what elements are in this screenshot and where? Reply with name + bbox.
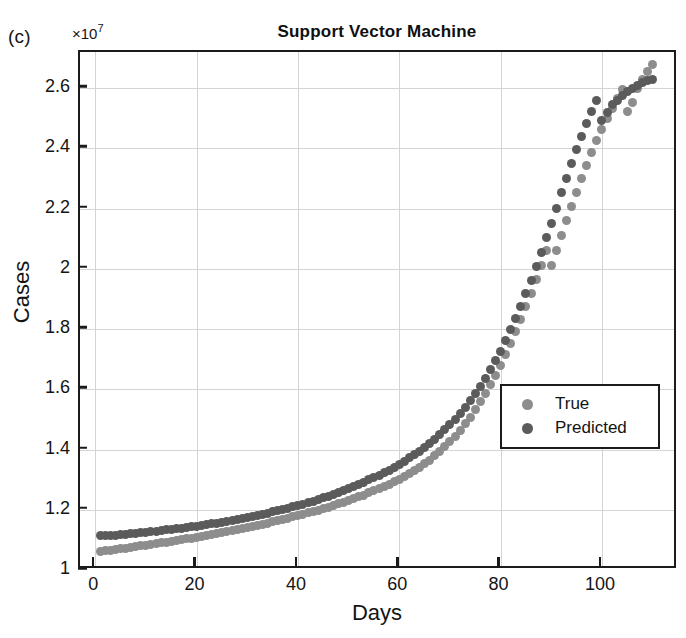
gridline-horizontal (80, 329, 674, 330)
y-tick-mark (78, 266, 87, 269)
data-point-true (587, 148, 596, 157)
data-point-true (572, 188, 581, 197)
gridline-horizontal (80, 209, 674, 210)
figure-panel: (c) ×107 Support Vector Machine 11.21.41… (0, 0, 686, 638)
data-point-pred (562, 174, 571, 183)
x-tick-label: 100 (565, 574, 635, 595)
legend-marker-icon (522, 399, 533, 410)
data-point-pred (582, 119, 591, 128)
data-point-pred (567, 159, 576, 168)
data-point-pred (537, 248, 546, 257)
x-tick-mark (295, 557, 298, 566)
data-point-pred (597, 116, 606, 125)
data-point-true (562, 216, 571, 225)
y-tick-label: 1.2 (28, 497, 70, 518)
data-point-true (582, 161, 591, 170)
x-axis-title: Days (78, 600, 676, 626)
data-point-true (567, 202, 576, 211)
gridline-horizontal (80, 450, 674, 451)
data-point-pred (547, 219, 556, 228)
y-tick-label: 1.4 (28, 437, 70, 458)
x-tick-mark (497, 557, 500, 566)
data-point-pred (481, 374, 490, 383)
y-tick-mark (78, 85, 87, 88)
y-tick-mark (78, 145, 87, 148)
data-point-pred (592, 96, 601, 105)
x-tick-label: 80 (464, 574, 534, 595)
data-point-true (597, 125, 606, 134)
x-tick-label: 20 (160, 574, 230, 595)
x-tick-label: 60 (362, 574, 432, 595)
gridline-vertical (197, 52, 198, 566)
data-point-true (648, 60, 657, 69)
x-tick-label: 0 (58, 574, 128, 595)
plot-canvas (80, 52, 674, 566)
data-point-pred (572, 145, 581, 154)
legend-item[interactable]: Predicted (510, 416, 650, 440)
gridline-horizontal (80, 510, 674, 511)
data-point-pred (603, 108, 612, 117)
x-tick-label: 40 (261, 574, 331, 595)
y-axis-tick-marks (78, 50, 90, 568)
data-point-true (557, 231, 566, 240)
data-point-pred (557, 188, 566, 197)
y-tick-mark (78, 326, 87, 329)
plot-area (78, 50, 676, 568)
data-point-true (471, 405, 480, 414)
x-tick-mark (599, 557, 602, 566)
chart-title: Support Vector Machine (78, 22, 676, 42)
x-tick-mark (92, 557, 95, 566)
data-point-true (577, 174, 586, 183)
x-tick-mark (396, 557, 399, 566)
data-point-pred (532, 262, 541, 271)
panel-label: (c) (8, 26, 31, 48)
legend-item[interactable]: True (510, 392, 650, 416)
data-point-true (628, 98, 637, 107)
gridline-horizontal (80, 88, 674, 89)
gridline-horizontal (80, 269, 674, 270)
data-point-true (476, 397, 485, 406)
data-point-pred (587, 107, 596, 116)
data-point-true (552, 246, 561, 255)
data-point-pred (496, 347, 505, 356)
gridline-vertical (95, 52, 96, 566)
legend-marker-icon (522, 423, 533, 434)
gridline-vertical (298, 52, 299, 566)
x-axis-tick-labels: 020406080100 (78, 574, 676, 602)
data-point-pred (542, 233, 551, 242)
y-tick-label: 2.2 (28, 196, 70, 217)
data-point-pred (527, 276, 536, 285)
y-tick-label: 2.6 (28, 76, 70, 97)
gridline-vertical (399, 52, 400, 566)
y-tick-mark (78, 507, 87, 510)
data-point-pred (476, 382, 485, 391)
y-tick-mark (78, 386, 87, 389)
y-tick-label: 2.4 (28, 136, 70, 157)
legend-item-label: Predicted (555, 418, 627, 438)
data-point-true (592, 136, 601, 145)
gridline-vertical (501, 52, 502, 566)
x-tick-mark (193, 557, 196, 566)
data-point-pred (577, 132, 586, 141)
legend-item-label: True (555, 394, 589, 414)
x-axis-tick-marks (78, 557, 676, 569)
y-tick-mark (78, 446, 87, 449)
gridline-horizontal (80, 148, 674, 149)
y-tick-mark (78, 205, 87, 208)
y-axis-title: Cases (9, 232, 35, 352)
data-point-pred (648, 75, 657, 84)
data-point-pred (552, 204, 561, 213)
chart-legend: TruePredicted (500, 384, 660, 449)
data-point-true (623, 107, 632, 116)
y-tick-label: 1.6 (28, 377, 70, 398)
